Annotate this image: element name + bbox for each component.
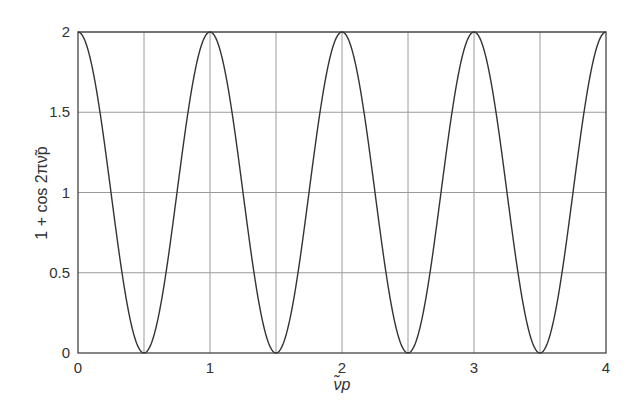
x-tick-label: 0 [74, 359, 82, 376]
x-tick-labels: 01234 [74, 359, 610, 376]
y-tick-labels: 00.511.52 [49, 23, 70, 361]
y-axis-label: 1 + cos 2πν̃p [33, 146, 50, 239]
chart: 01234 00.511.52 ν̃p 1 + cos 2πν̃p [0, 0, 643, 420]
y-tick-label: 1 [62, 184, 70, 201]
gridlines [78, 32, 606, 353]
x-axis-label: ν̃p [334, 374, 351, 393]
x-tick-label: 2 [338, 359, 346, 376]
y-tick-label: 0.5 [49, 264, 70, 281]
y-tick-label: 2 [62, 23, 70, 40]
y-tick-label: 0 [62, 344, 70, 361]
y-tick-label: 1.5 [49, 103, 70, 120]
x-tick-label: 1 [206, 359, 214, 376]
x-tick-label: 3 [470, 359, 478, 376]
x-tick-label: 4 [602, 359, 610, 376]
